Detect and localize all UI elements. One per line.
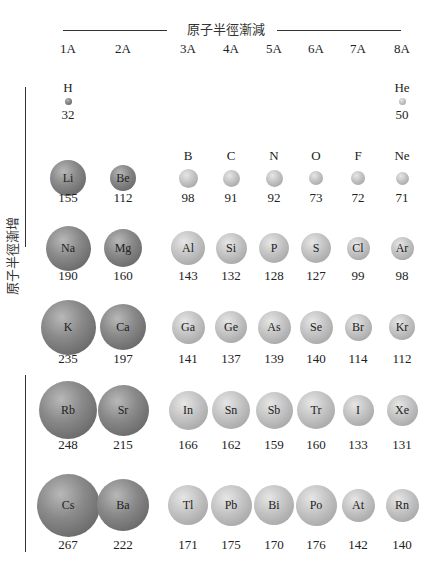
atomic-radius-value-h: 32 <box>48 107 88 123</box>
atom-sphere-tl: Tl <box>168 485 208 525</box>
atom-sphere-h <box>65 98 72 105</box>
element-symbol-in: In <box>183 403 193 418</box>
element-symbol-se: Se <box>310 320 322 335</box>
element-symbol-b: B <box>168 148 208 164</box>
element-symbol-c: C <box>211 148 251 164</box>
atomic-radius-value-c: 91 <box>211 190 251 206</box>
element-symbol-po: Po <box>310 498 323 513</box>
atom-sphere-xe: Xe <box>387 395 418 426</box>
atom-sphere-p: P <box>259 233 289 263</box>
element-symbol-cs: Cs <box>62 498 75 513</box>
element-symbol-ge: Ge <box>224 320 238 335</box>
atomic-radius-value-ba: 222 <box>103 537 143 553</box>
atom-sphere-kr: Kr <box>389 314 415 340</box>
element-symbol-li: Li <box>63 171 74 186</box>
atomic-radius-value-na: 190 <box>48 268 88 284</box>
atomic-radius-value-si: 132 <box>211 268 251 284</box>
group-header-2a: 2A <box>103 41 143 57</box>
atom-sphere-n <box>266 170 283 187</box>
atom-sphere-mg: Mg <box>104 229 142 267</box>
atom-sphere-pb: Pb <box>211 485 252 526</box>
element-symbol-sb: Sb <box>268 403 281 418</box>
element-symbol-at: At <box>352 498 364 513</box>
atom-sphere-bi: Bi <box>254 485 294 525</box>
atomic-radius-value-bi: 170 <box>254 537 294 553</box>
top-arrow-line-left <box>63 30 167 31</box>
atomic-radius-value-n: 92 <box>254 190 294 206</box>
atomic-radius-value-cl: 99 <box>338 268 378 284</box>
atomic-radius-value-b: 98 <box>168 190 208 206</box>
atomic-radius-value-be: 112 <box>103 190 143 206</box>
atomic-radius-value-tl: 171 <box>168 537 208 553</box>
left-trend-label: 原子半徑漸增 <box>2 216 20 296</box>
atomic-radius-value-ne: 71 <box>382 190 422 206</box>
top-trend-label: 原子半徑漸減 <box>186 19 266 38</box>
element-symbol-mg: Mg <box>115 241 132 256</box>
element-symbol-ca: Ca <box>116 320 129 335</box>
element-symbol-n: N <box>254 148 294 164</box>
atom-sphere-in: In <box>169 391 208 430</box>
element-symbol-ar: Ar <box>396 241 409 256</box>
atomic-radius-value-ar: 98 <box>382 268 422 284</box>
atom-sphere-al: Al <box>171 231 205 265</box>
element-symbol-as: As <box>267 320 280 335</box>
atom-sphere-na: Na <box>46 226 91 271</box>
atom-sphere-s: S <box>301 233 331 263</box>
atom-sphere-as: As <box>258 311 291 344</box>
element-symbol-rb: Rb <box>61 403 75 418</box>
atom-sphere-rn: Rn <box>386 489 419 522</box>
atomic-radius-value-po: 176 <box>296 537 336 553</box>
group-header-6a: 6A <box>296 41 336 57</box>
atomic-radius-value-tr: 160 <box>296 437 336 453</box>
atomic-radius-value-cs: 267 <box>48 537 88 553</box>
group-header-4a: 4A <box>211 41 251 57</box>
atom-sphere-ba: Ba <box>97 479 149 531</box>
atomic-radius-value-ge: 137 <box>211 351 251 367</box>
atom-sphere-ne <box>396 172 409 185</box>
atom-sphere-br: Br <box>345 314 372 341</box>
atomic-radius-value-rb: 248 <box>48 437 88 453</box>
element-symbol-p: P <box>271 241 278 256</box>
atomic-radius-value-ga: 141 <box>168 351 208 367</box>
element-symbol-h: H <box>48 80 88 96</box>
element-symbol-tr: Tr <box>311 403 322 418</box>
element-symbol-bi: Bi <box>268 498 279 513</box>
top-arrow-line-right <box>277 30 401 31</box>
element-symbol-be: Be <box>116 171 129 186</box>
atom-sphere-cl: Cl <box>347 237 370 260</box>
group-header-1a: 1A <box>48 41 88 57</box>
element-symbol-na: Na <box>61 241 75 256</box>
element-symbol-sn: Sn <box>225 403 238 418</box>
atom-sphere-se: Se <box>300 311 333 344</box>
atom-sphere-rb: Rb <box>39 381 97 439</box>
element-symbol-ga: Ga <box>181 320 195 335</box>
element-symbol-rn: Rn <box>395 498 409 513</box>
left-arrow-line-bottom <box>25 375 26 552</box>
atom-sphere-ga: Ga <box>172 311 205 344</box>
group-header-7a: 7A <box>338 41 378 57</box>
element-symbol-o: O <box>296 148 336 164</box>
atom-sphere-sn: Sn <box>212 391 250 429</box>
atomic-radius-value-kr: 112 <box>382 351 422 367</box>
element-symbol-he: He <box>382 80 422 96</box>
atomic-radius-value-se: 140 <box>296 351 336 367</box>
atomic-radius-value-ca: 197 <box>103 351 143 367</box>
atomic-radius-value-sr: 215 <box>103 437 143 453</box>
element-symbol-cl: Cl <box>352 241 363 256</box>
atom-sphere-b <box>179 169 198 188</box>
element-symbol-pb: Pb <box>225 498 238 513</box>
atom-sphere-sr: Sr <box>98 385 149 436</box>
atomic-radius-value-in: 166 <box>168 437 208 453</box>
group-header-3a: 3A <box>168 41 208 57</box>
left-arrow-line-top <box>25 87 26 247</box>
element-symbol-kr: Kr <box>396 320 409 335</box>
atom-sphere-ge: Ge <box>215 311 247 343</box>
element-symbol-al: Al <box>182 241 194 256</box>
atom-sphere-si: Si <box>216 233 247 264</box>
atom-sphere-he <box>399 98 406 105</box>
element-symbol-xe: Xe <box>395 403 409 418</box>
atomic-radius-value-he: 50 <box>382 107 422 123</box>
element-symbol-br: Br <box>352 320 364 335</box>
atomic-radius-value-f: 72 <box>338 190 378 206</box>
atomic-radius-value-sb: 159 <box>254 437 294 453</box>
